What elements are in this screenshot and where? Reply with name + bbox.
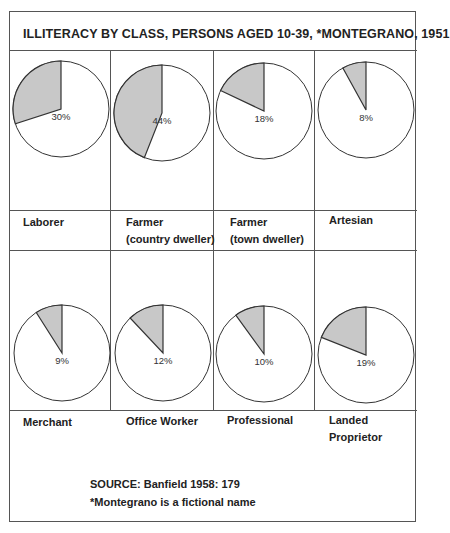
percent-label: 44%: [152, 115, 172, 126]
pie-professional: 10%: [214, 304, 314, 404]
percent-label: 18%: [254, 113, 274, 124]
pie-laborer: 30%: [11, 59, 111, 159]
source-citation: SOURCE: Banfield 1958: 179: [90, 475, 256, 493]
pie-artesian: 8%: [316, 60, 416, 160]
pie-merchant: 9%: [12, 303, 112, 403]
percent-label: 30%: [51, 111, 71, 122]
pie-office-worker: 12%: [113, 303, 213, 403]
pie-farmer-country: 44%: [112, 63, 212, 163]
label-merchant: Merchant: [23, 414, 72, 431]
label-farmer-country: Farmer(country dweller): [126, 214, 215, 248]
label-artesian: Artesian: [329, 212, 373, 229]
label-landed-proprietor: LandedProprietor: [329, 412, 382, 446]
pie-landed-proprietor: 19%: [316, 305, 416, 405]
label-farmer-town: Farmer(town dweller): [230, 214, 304, 248]
row2-col-divider-3: [314, 250, 315, 410]
pie-farmer-town: 18%: [214, 61, 314, 161]
percent-label: 9%: [55, 355, 69, 366]
source-note: SOURCE: Banfield 1958: 179 *Montegrano i…: [90, 475, 256, 511]
percent-label: 8%: [359, 112, 373, 123]
label-office-worker: Office Worker: [126, 413, 198, 430]
label-laborer: Laborer: [23, 214, 64, 231]
percent-label: 10%: [254, 356, 274, 367]
row2-pie-divider: [9, 410, 417, 411]
label-professional: Professional: [227, 412, 293, 429]
row1-col-divider-3: [314, 50, 315, 250]
chart-title: ILLITERACY BY CLASS, PERSONS AGED 10-39,…: [23, 27, 450, 41]
percent-label: 19%: [356, 357, 376, 368]
percent-label: 12%: [153, 355, 173, 366]
fictional-name-note: *Montegrano is a fictional name: [90, 493, 256, 511]
